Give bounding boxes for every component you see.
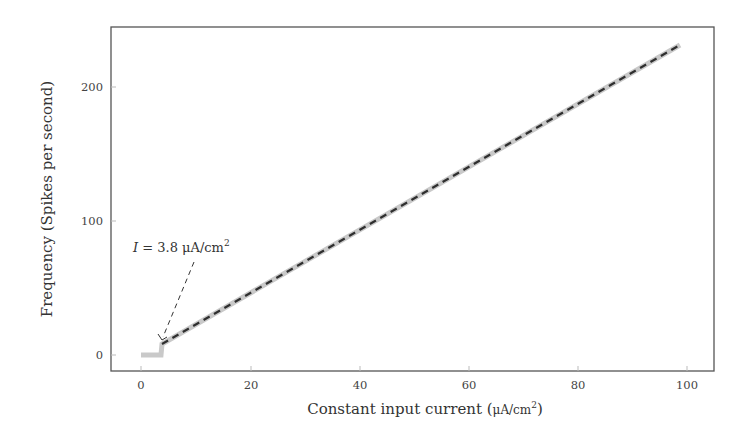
x-tick-label: 0: [137, 378, 144, 392]
y-tick-label: 200: [81, 80, 103, 94]
x-axis-label: Constant input current (μA/cm2): [307, 400, 543, 418]
chart: 0 20 40 60 80 100 0 100 200 Constant inp…: [0, 0, 750, 444]
y-tick-label: 0: [96, 348, 103, 362]
x-tick-label: 100: [676, 378, 698, 392]
x-tick-label: 60: [462, 378, 477, 392]
y-tick-label: 100: [81, 214, 103, 228]
x-tick-label: 80: [571, 378, 586, 392]
annotation-label: I = 3.8 μA/cm2: [132, 238, 230, 255]
y-axis-ticks: [111, 87, 116, 355]
y-axis-label: Frequency (Spikes per second): [38, 81, 56, 317]
y-tick-labels: 0 100 200: [81, 80, 103, 362]
x-tick-labels: 0 20 40 60 80 100: [137, 378, 698, 392]
x-tick-label: 40: [353, 378, 368, 392]
x-axis-ticks: [141, 366, 687, 371]
x-tick-label: 20: [244, 378, 259, 392]
